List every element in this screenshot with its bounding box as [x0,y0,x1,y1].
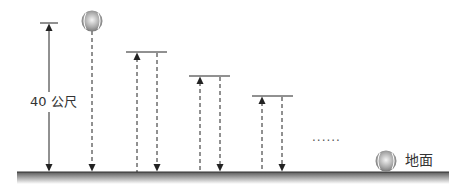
continuation-ellipsis: ...... [312,130,341,144]
height-label: 40 公尺 [30,92,77,112]
ground-label: 地面 [405,152,433,168]
arrow-up-icon [46,24,53,32]
ball-icon [82,11,103,32]
arrow-up-icon [197,77,204,85]
arrow-up-icon [259,97,266,105]
bounce-1 [126,52,167,172]
arrow-down-icon [217,164,224,172]
arrow-down-icon [279,164,286,172]
ground [17,172,449,184]
arrow-up-icon [134,53,141,61]
ball-on-ground-icon [376,151,397,172]
bounce-2 [189,76,230,172]
ball-drop [82,11,103,172]
arrow-down-icon [46,164,53,172]
bounce-3 [252,96,293,172]
arrow-down-icon [154,164,161,172]
